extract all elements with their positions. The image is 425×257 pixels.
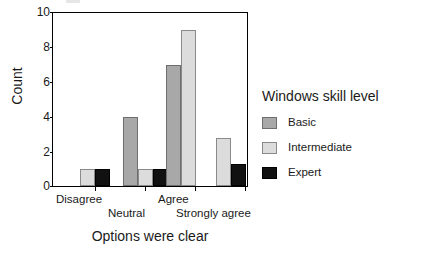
legend: Windows skill level Basic Intermediate E… bbox=[262, 88, 422, 191]
x-tick-mark bbox=[145, 187, 146, 191]
x-tick-label-strongly-agree: Strongly agree bbox=[176, 207, 251, 220]
bar-stronglyagree-intermediate bbox=[216, 138, 231, 186]
bar-agree-intermediate bbox=[181, 30, 196, 186]
y-tick-label: 10 bbox=[28, 6, 50, 18]
bar-stronglyagree-expert bbox=[231, 164, 246, 186]
legend-label-intermediate: Intermediate bbox=[288, 141, 352, 154]
legend-swatch-basic-icon bbox=[262, 117, 277, 129]
legend-swatch-expert-icon bbox=[262, 167, 277, 179]
y-axis-title: Count bbox=[9, 41, 25, 131]
x-tick-mark bbox=[95, 187, 96, 191]
legend-label-basic: Basic bbox=[288, 116, 316, 129]
x-tick-label-agree: Agree bbox=[158, 193, 189, 206]
y-tick-label: 2 bbox=[28, 146, 50, 158]
y-axis: 10 8 6 4 2 0 bbox=[22, 12, 50, 187]
y-tick-label: 0 bbox=[28, 180, 50, 192]
legend-item-expert: Expert bbox=[262, 166, 422, 179]
bar-disagree-expert bbox=[95, 169, 110, 186]
bar-chart: 10 8 6 4 2 0 Count Disagree Neutral bbox=[0, 0, 425, 257]
y-tick-label: 8 bbox=[28, 41, 50, 53]
legend-title: Windows skill level bbox=[262, 88, 422, 104]
plot-area bbox=[52, 12, 248, 187]
x-tick-mark bbox=[245, 187, 246, 191]
x-tick-label-neutral: Neutral bbox=[108, 207, 145, 220]
x-tick-label-disagree: Disagree bbox=[56, 193, 102, 206]
x-tick-mark bbox=[195, 187, 196, 191]
legend-label-expert: Expert bbox=[288, 166, 321, 179]
bar-agree-basic bbox=[166, 65, 181, 186]
legend-item-basic: Basic bbox=[262, 116, 422, 129]
legend-swatch-intermediate-icon bbox=[262, 142, 277, 154]
bar-disagree-intermediate bbox=[80, 169, 95, 186]
y-tick-label: 6 bbox=[28, 76, 50, 88]
cropped-text-artifact bbox=[66, 0, 80, 3]
bar-neutral-intermediate bbox=[138, 169, 153, 186]
x-axis-title: Options were clear bbox=[52, 228, 248, 244]
y-tick-label: 4 bbox=[28, 111, 50, 123]
bar-neutral-basic bbox=[123, 117, 138, 186]
legend-item-intermediate: Intermediate bbox=[262, 141, 422, 154]
bars-layer bbox=[53, 13, 247, 186]
